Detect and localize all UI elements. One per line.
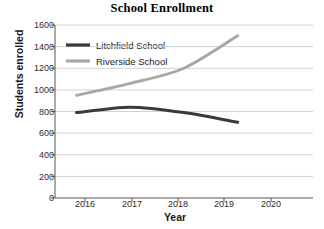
x-tick-marks	[85, 198, 271, 202]
series-line-litchfield	[77, 107, 238, 122]
gridlines	[55, 25, 313, 176]
plot-area	[0, 0, 324, 229]
series-line-riverside	[77, 36, 238, 95]
y-tick-marks	[51, 25, 55, 198]
school-enrollment-chart: School Enrollment Students enrolled Year…	[0, 0, 324, 229]
